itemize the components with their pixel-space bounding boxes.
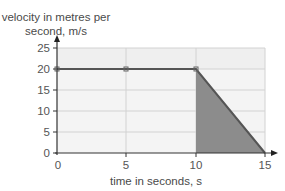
y-tick-label: 15 (37, 84, 50, 96)
x-tick-label: 0 (55, 159, 61, 171)
y-tick-label: 25 (37, 42, 50, 54)
y-tick-label: 5 (44, 126, 50, 138)
velocity-time-chart: 0 5 10 15 20 25 0 5 10 15 (0, 0, 285, 191)
x-tick-label: 5 (123, 159, 129, 171)
y-tick-label: 10 (37, 105, 50, 117)
y-tick-label: 0 (44, 147, 50, 159)
x-ticks (126, 153, 265, 157)
y-axis-arrow-icon (54, 35, 60, 42)
x-tick-label: 15 (259, 159, 272, 171)
x-axis-arrow-icon (271, 150, 278, 156)
y-tick-label: 20 (37, 63, 50, 75)
x-axis-label: time in seconds, s (110, 174, 285, 188)
plot-top-band (57, 48, 265, 69)
x-tick-label: 10 (190, 159, 203, 171)
